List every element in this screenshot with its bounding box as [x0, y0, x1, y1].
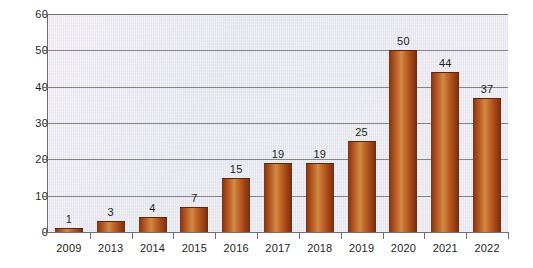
x-tick-label-2017: 2017	[265, 242, 290, 254]
x-tick-mark	[257, 232, 258, 239]
x-tick-label-2022: 2022	[474, 242, 499, 254]
x-tick-mark	[299, 232, 300, 239]
x-tick-mark	[383, 232, 384, 239]
bar-slot: 4	[132, 14, 174, 232]
bar-slot: 19	[257, 14, 299, 232]
bar-value-label: 19	[272, 148, 285, 160]
x-tick-label-2015: 2015	[182, 242, 207, 254]
bar-value-label: 15	[230, 163, 243, 175]
bar-value-label: 44	[439, 57, 452, 69]
bar-slot: 15	[215, 14, 257, 232]
bar-value-label: 25	[355, 126, 368, 138]
bar[interactable]	[264, 163, 292, 232]
bar-slot: 1	[48, 14, 90, 232]
x-tick-label-2019: 2019	[349, 242, 374, 254]
bar-chart: 0102030405060 134715191925504437 2009201…	[0, 0, 533, 268]
bar-value-label: 7	[191, 192, 197, 204]
bar[interactable]	[180, 207, 208, 232]
x-tick-label-2020: 2020	[391, 242, 416, 254]
x-axis: 2009201320142015201620172018201920202021…	[48, 232, 508, 268]
bar-slot: 37	[466, 14, 508, 232]
x-tick-label-2021: 2021	[433, 242, 458, 254]
bar-value-label: 37	[481, 83, 494, 95]
x-tick-mark	[132, 232, 133, 239]
bar-value-label: 3	[108, 206, 114, 218]
x-tick-mark	[215, 232, 216, 239]
bar[interactable]	[222, 178, 250, 233]
x-tick-label-2016: 2016	[224, 242, 249, 254]
bar[interactable]	[306, 163, 334, 232]
bar-slot: 3	[90, 14, 132, 232]
x-tick-mark	[90, 232, 91, 239]
bars-layer: 134715191925504437	[48, 14, 508, 232]
bar[interactable]	[139, 217, 167, 232]
bar[interactable]	[473, 98, 501, 232]
x-tick-mark	[508, 232, 509, 239]
bar-slot: 19	[299, 14, 341, 232]
bar[interactable]	[348, 141, 376, 232]
x-tick-mark	[173, 232, 174, 239]
bar-value-label: 50	[397, 35, 410, 47]
bar-value-label: 1	[66, 213, 72, 225]
bar-slot: 44	[424, 14, 466, 232]
bar[interactable]	[431, 72, 459, 232]
bar[interactable]	[389, 50, 417, 232]
x-tick-label-2014: 2014	[140, 242, 165, 254]
bar-value-label: 4	[149, 202, 155, 214]
bar-value-label: 19	[313, 148, 326, 160]
bar-slot: 50	[383, 14, 425, 232]
x-tick-label-2013: 2013	[98, 242, 123, 254]
x-tick-mark	[424, 232, 425, 239]
bar-slot: 25	[341, 14, 383, 232]
bar-slot: 7	[173, 14, 215, 232]
x-tick-mark	[341, 232, 342, 239]
y-axis: 0102030405060	[0, 0, 48, 268]
bar[interactable]	[97, 221, 125, 232]
x-tick-mark	[466, 232, 467, 239]
x-tick-label-2009: 2009	[56, 242, 81, 254]
x-tick-label-2018: 2018	[307, 242, 332, 254]
